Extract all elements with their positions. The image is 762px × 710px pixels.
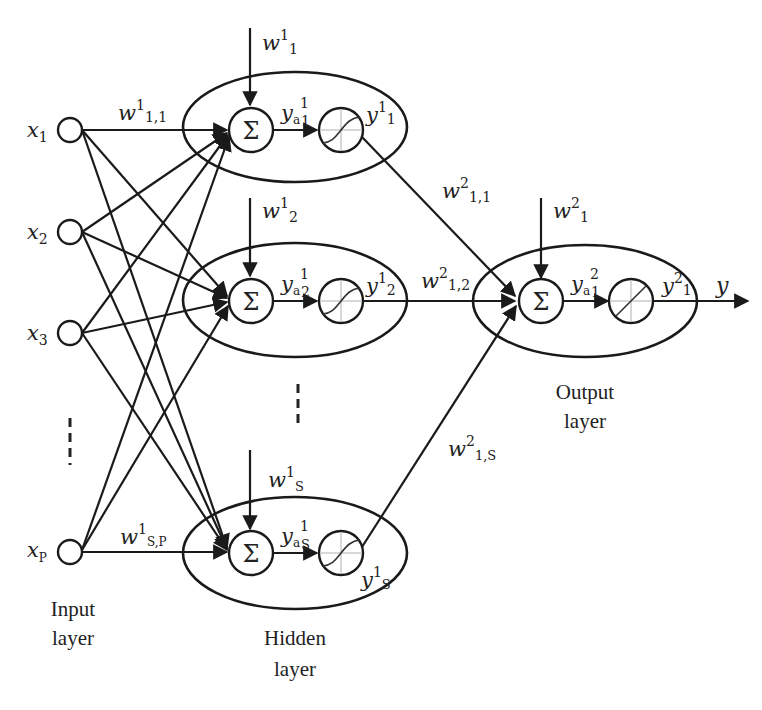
activation-input-label-hs: ya1S [280, 518, 310, 552]
sum-icon: Σ [533, 288, 550, 316]
input-node-x2 [58, 220, 82, 244]
edge-x2-hs [82, 232, 227, 549]
sigmoid-node-hs [319, 531, 363, 575]
output-label-h2: y12 [365, 270, 396, 298]
sum-icon: Σ [243, 117, 260, 145]
weight-label-w1-sp: w1S,P [120, 521, 167, 549]
output-layer-caption-line1: Output [556, 380, 615, 404]
sigmoid-node-h1 [319, 108, 363, 152]
edge-x1-h2 [82, 130, 227, 296]
input-label-x2: x2 [27, 220, 48, 247]
output-label-h1: y11 [365, 99, 396, 127]
input-node-x1 [58, 118, 82, 142]
output-label-hs: y1S [360, 564, 391, 592]
input-layer-caption-line1: Input [51, 597, 95, 621]
hidden-output-connections: w21,1 w21,2 w21,S [362, 137, 516, 547]
sigmoid-node-h2 [319, 279, 363, 323]
hidden-neuron-1: w11 Σ ya11 y11 [183, 27, 407, 182]
activation-input-label-out: ya21 [570, 266, 600, 300]
output-layer-caption-line2: layer [564, 409, 606, 433]
edge-hs-out [362, 306, 516, 547]
weight-label-w2-1s: w21,S [448, 433, 496, 463]
bias-label-h2: w12 [262, 195, 298, 225]
sum-icon: Σ [243, 288, 260, 316]
input-label-x3: x3 [27, 321, 48, 348]
input-label-x1: x1 [27, 118, 48, 145]
output-neuron: w21 Σ ya21 y21 y Output layer [473, 195, 748, 433]
hidden-neuron-s: w1S Σ ya1S y1S Hidden layer [183, 450, 407, 681]
activation-input-label-h2: ya12 [280, 266, 310, 300]
hidden-layer-caption-line1: Hidden [264, 626, 326, 650]
sum-icon: Σ [243, 540, 260, 568]
hidden-layer-caption-line2: layer [274, 657, 316, 681]
input-label-xp: xP [27, 538, 47, 565]
hidden-neuron-1-boundary [183, 72, 407, 182]
edge-x2-h1 [82, 133, 227, 232]
input-hidden-connections [82, 130, 229, 552]
neural-network-diagram: x1 x2 x3 xP Input layer w11,1 w1S,P w11 … [0, 0, 762, 710]
bias-label-hs: w1S [268, 464, 304, 494]
output-label-out: y21 [661, 270, 692, 298]
edge-x1-hs [82, 130, 227, 548]
edge-x3-hs [82, 333, 227, 550]
input-node-xp [58, 540, 82, 564]
weight-label-w2-11: w21,1 [442, 175, 491, 205]
edge-x3-h1 [82, 135, 228, 333]
weight-label-w2-12: w21,2 [421, 265, 470, 293]
input-layer: x1 x2 x3 xP Input layer [27, 118, 95, 650]
linear-node-out [609, 279, 653, 323]
input-node-x3 [58, 321, 82, 345]
input-layer-caption-line2: layer [52, 626, 94, 650]
final-output-label: y [715, 273, 729, 298]
bias-label-h1: w11 [262, 27, 298, 57]
hidden-neuron-2: w12 Σ ya12 y12 [183, 195, 407, 357]
bias-label-out: w21 [553, 195, 589, 225]
weight-label-w1-11: w11,1 [118, 97, 167, 125]
activation-input-label-h1: ya11 [280, 95, 310, 129]
edge-x3-h2 [82, 302, 227, 333]
